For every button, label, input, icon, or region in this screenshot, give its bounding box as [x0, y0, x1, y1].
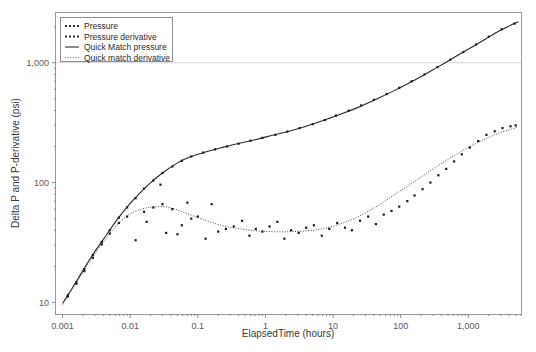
data-point: [197, 215, 199, 217]
data-point: [118, 217, 120, 219]
chart-container: 0.0010.010.11101001,000 101001,000 Elaps…: [0, 0, 536, 352]
data-point: [298, 232, 300, 234]
data-point: [217, 230, 219, 232]
data-point: [211, 203, 213, 205]
data-point: [449, 59, 451, 61]
data-point: [313, 224, 315, 226]
data-point: [453, 160, 455, 162]
data-point: [226, 145, 228, 147]
legend: PressurePressure derivativeQuick Match p…: [61, 18, 173, 63]
data-point: [513, 23, 515, 25]
data-point: [359, 220, 361, 222]
data-point: [67, 295, 69, 297]
data-curves: [63, 22, 519, 305]
data-point: [336, 222, 338, 224]
data-point: [75, 283, 77, 285]
data-point: [241, 220, 243, 222]
data-point: [249, 140, 251, 142]
data-point: [386, 93, 388, 95]
data-point: [181, 224, 183, 226]
x-tick-label: 0.001: [51, 321, 74, 331]
data-point: [488, 36, 490, 38]
legend-item-label: Pressure derivative: [84, 32, 157, 42]
data-point: [261, 137, 263, 139]
data-point: [348, 110, 350, 112]
model-curve: [63, 22, 519, 304]
data-point: [255, 228, 257, 230]
data-point: [161, 172, 163, 174]
data-point: [126, 215, 128, 217]
data-markers: [67, 23, 517, 298]
data-point: [248, 235, 250, 237]
data-point: [421, 188, 423, 190]
data-point: [485, 134, 487, 136]
data-point: [286, 131, 288, 133]
x-axis-title: ElapsedTime (hours): [242, 328, 334, 339]
data-point: [92, 257, 94, 259]
data-point: [101, 243, 103, 245]
data-point: [501, 127, 503, 129]
data-point: [233, 225, 235, 227]
data-point: [383, 214, 385, 216]
data-point: [299, 127, 301, 129]
data-point: [360, 104, 362, 106]
data-point: [134, 197, 136, 199]
data-point: [494, 130, 496, 132]
data-point: [214, 148, 216, 150]
data-point: [413, 194, 415, 196]
data-point: [109, 229, 111, 231]
data-point: [437, 174, 439, 176]
x-tick-label: 0.1: [192, 321, 205, 331]
data-point: [190, 155, 192, 157]
y-axis-title: Delta P and P-derivative (psi): [10, 98, 21, 228]
x-tick-label: 0.01: [121, 321, 139, 331]
data-point: [469, 146, 471, 148]
data-point: [398, 206, 400, 208]
data-point: [324, 119, 326, 121]
data-point: [261, 230, 263, 232]
data-point: [312, 123, 314, 125]
data-point: [274, 134, 276, 136]
data-point: [146, 221, 148, 223]
data-point: [515, 124, 517, 126]
x-tick-label: 1,000: [457, 321, 480, 331]
data-point: [268, 225, 270, 227]
legend-item-label: Pressure: [84, 21, 118, 31]
data-point: [202, 151, 204, 153]
data-point: [501, 28, 503, 30]
data-point: [225, 228, 227, 230]
data-point: [283, 238, 285, 240]
data-point: [335, 115, 337, 117]
data-point: [321, 235, 323, 237]
data-point: [509, 125, 511, 127]
data-point: [165, 232, 167, 234]
data-point: [171, 165, 173, 167]
data-point: [423, 73, 425, 75]
data-point: [351, 229, 353, 231]
log-log-plot: 0.0010.010.11101001,000 101001,000 Elaps…: [0, 0, 536, 352]
data-point: [126, 206, 128, 208]
y-tick-label: 100: [34, 178, 49, 188]
legend-item-label: Quick Match pressure: [84, 42, 167, 52]
data-point: [406, 200, 408, 202]
data-point: [159, 184, 161, 186]
data-point: [143, 211, 145, 213]
data-point: [152, 179, 154, 181]
data-point: [390, 210, 392, 212]
data-point: [83, 270, 85, 272]
data-point: [143, 188, 145, 190]
data-point: [186, 202, 188, 204]
data-point: [83, 268, 85, 270]
data-point: [152, 206, 154, 208]
data-point: [429, 181, 431, 183]
data-point: [375, 223, 377, 225]
data-point: [118, 222, 120, 224]
data-point: [436, 66, 438, 68]
data-point: [181, 160, 183, 162]
data-point: [305, 227, 307, 229]
data-point: [92, 254, 94, 256]
legend-item-label: Quick match derivative: [84, 53, 170, 63]
data-point: [109, 233, 111, 235]
data-point: [276, 221, 278, 223]
model-curve: [63, 127, 519, 305]
